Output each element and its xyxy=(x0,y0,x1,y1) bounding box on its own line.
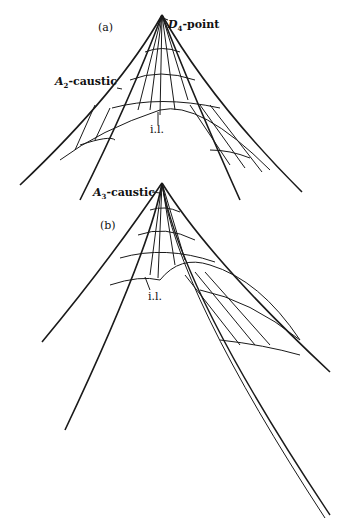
a2-leader xyxy=(117,88,122,89)
caustic-diagram xyxy=(0,0,347,528)
il-a-label: i.l. xyxy=(150,123,164,136)
panel-a-label: (a) xyxy=(98,21,113,34)
il-b-leader xyxy=(145,277,150,290)
panel-b-label: (b) xyxy=(100,219,116,232)
a2-caustic-label: A2-caustic xyxy=(55,75,117,90)
d4-point-label: D4-point xyxy=(168,18,219,33)
a3-caustic-label: A3-caustic xyxy=(93,186,155,201)
panel-a-surface xyxy=(20,15,302,200)
panel-b-surface xyxy=(42,183,330,518)
il-b-label: i.l. xyxy=(148,290,162,303)
